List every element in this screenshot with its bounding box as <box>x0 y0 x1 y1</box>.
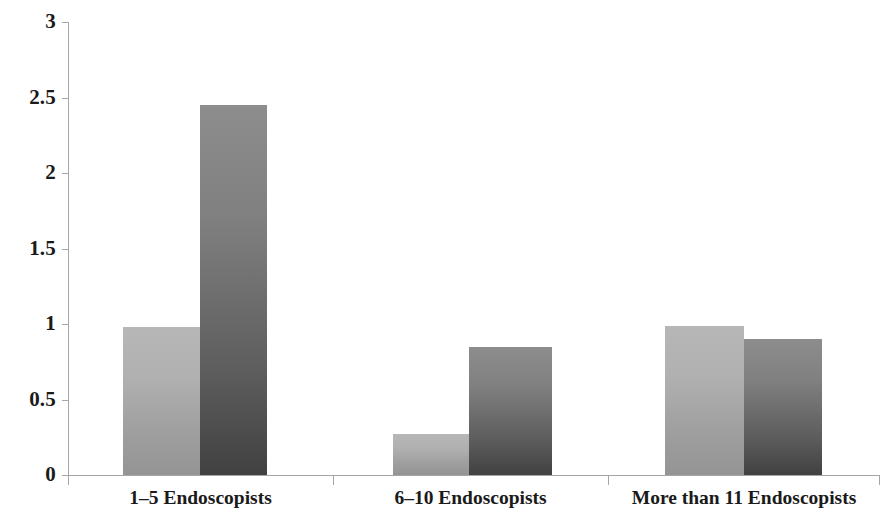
x-axis-line <box>68 475 880 476</box>
y-axis-tick-3 <box>62 22 69 23</box>
x-axis-tick-separator-2 <box>608 476 609 485</box>
y-axis-label-0: 0 <box>0 464 56 485</box>
y-axis-tick-1 <box>62 324 69 325</box>
x-axis-label-group-3: More than 11 Endoscopists <box>608 487 880 508</box>
x-axis-tick-separator-1 <box>333 476 334 485</box>
y-axis-label-1.5: 1.5 <box>0 238 56 259</box>
bar-group-1-series-1 <box>123 327 200 475</box>
bar-group-2-series-2 <box>469 347 552 475</box>
bar-group-2-series-1 <box>393 434 469 475</box>
y-axis-tick-2.5 <box>62 98 69 99</box>
y-axis-label-3: 3 <box>0 11 56 32</box>
x-axis-label-group-1: 1–5 Endoscopists <box>68 487 333 508</box>
bar-group-1-series-2 <box>200 105 267 475</box>
bar-chart: 3 2.5 2 1.5 1 0.5 0 1–5 Endoscopists 6–1… <box>0 0 892 521</box>
x-axis-tick-start <box>68 476 69 485</box>
x-axis-label-group-2: 6–10 Endoscopists <box>333 487 608 508</box>
bar-group-3-series-1 <box>665 326 744 475</box>
y-axis-label-2: 2 <box>0 162 56 183</box>
x-axis-tick-end <box>879 476 880 485</box>
bar-group-3-series-2 <box>744 339 822 475</box>
y-axis-label-0.5: 0.5 <box>0 389 56 410</box>
y-axis-tick-0.5 <box>62 400 69 401</box>
y-axis-label-1: 1 <box>0 313 56 334</box>
y-axis-label-2.5: 2.5 <box>0 87 56 108</box>
y-axis-tick-2 <box>62 173 69 174</box>
y-axis-tick-1.5 <box>62 249 69 250</box>
